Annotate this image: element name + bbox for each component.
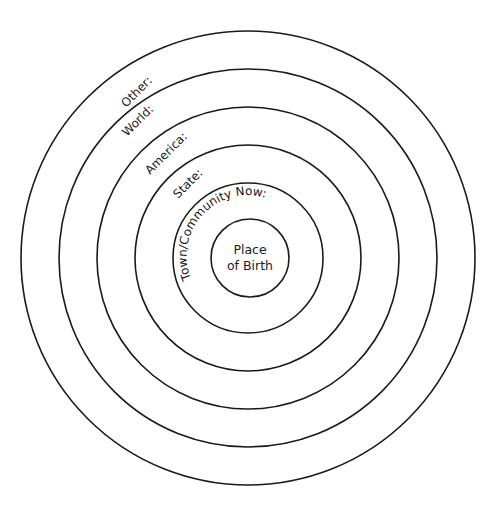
center-label-line2: of Birth	[227, 258, 273, 273]
center-label: Place of Birth	[227, 242, 273, 273]
label-america: America:	[142, 129, 190, 177]
concentric-circles-diagram: Other: World: America: State: Town/Commu…	[0, 0, 490, 508]
center-label-line1: Place	[233, 242, 267, 257]
